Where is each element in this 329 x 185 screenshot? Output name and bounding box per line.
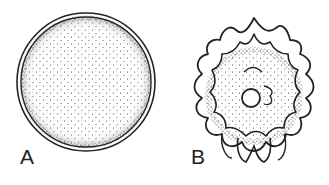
- panel-label-a: A: [20, 146, 34, 167]
- panel-label-b: B: [191, 146, 205, 167]
- cell-b: [195, 18, 314, 162]
- cell-a: [17, 13, 155, 151]
- figure-canvas: [0, 0, 329, 185]
